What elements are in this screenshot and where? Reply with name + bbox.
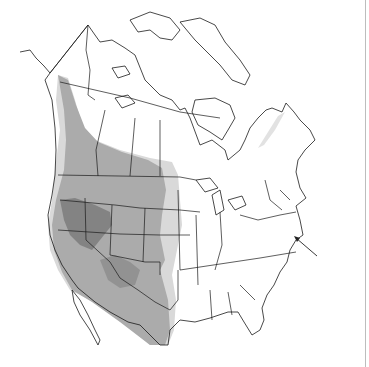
north-america-map [0,0,369,367]
image-right-edge [365,0,366,367]
location-arrow [294,236,317,256]
coastline [20,12,315,345]
range-map [0,0,369,367]
